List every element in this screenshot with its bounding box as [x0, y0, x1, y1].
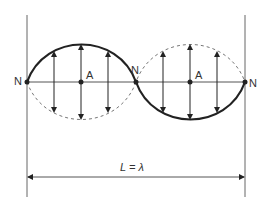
node-point-middle	[134, 80, 139, 85]
antinode-label-right: A	[195, 70, 202, 81]
antinode-point-left	[79, 80, 84, 85]
wavelength-label: L = λ	[120, 162, 144, 173]
node-label-middle: N	[131, 65, 139, 76]
standing-wave-diagram: N N N A A L = λ	[0, 0, 265, 211]
node-point-left	[25, 80, 30, 85]
node-label-left: N	[14, 76, 22, 87]
node-label-right: N	[249, 78, 257, 89]
diagram-canvas	[0, 0, 265, 211]
antinode-label-left: A	[86, 70, 93, 81]
node-point-right	[243, 80, 248, 85]
antinode-point-right	[188, 80, 193, 85]
